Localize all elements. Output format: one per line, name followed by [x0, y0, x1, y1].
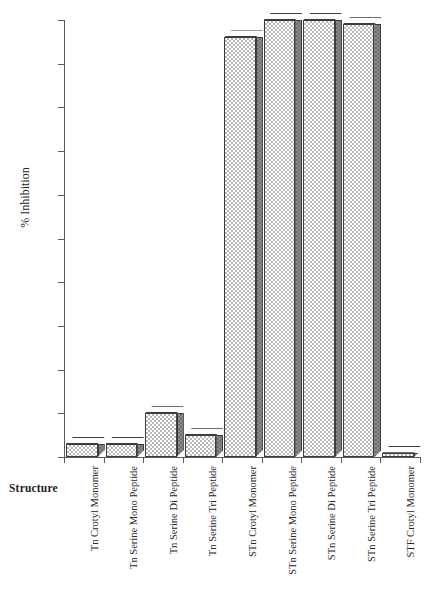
x-axis-category-label: Tn Crotyl Monomer	[89, 466, 101, 551]
bar-top-face	[185, 428, 224, 435]
x-axis-category-label: STn Serine Tri Peptide	[366, 466, 378, 562]
bar-side-face	[137, 444, 144, 457]
bar-top-face	[382, 446, 421, 453]
bar	[382, 446, 421, 457]
bar	[343, 17, 382, 457]
bar-top-face	[264, 13, 303, 20]
bar-chart: % Inhibition 0102030405060708090100 Tn C…	[0, 0, 428, 609]
bar-top-face	[343, 17, 382, 24]
bar-side-face	[98, 444, 105, 457]
x-axis-category-label: STn Crotyl Monomer	[247, 466, 259, 557]
bar-side-face	[216, 435, 223, 457]
bar-front-face	[303, 20, 335, 457]
bar-side-face	[256, 37, 263, 457]
bar-front-face	[343, 24, 375, 457]
bar-top-face	[66, 437, 105, 444]
bar-front-face	[264, 20, 296, 457]
x-axis-title: Structure	[9, 482, 58, 494]
bar-front-face	[145, 413, 177, 457]
bar-front-face	[66, 444, 98, 457]
bar-top-face	[224, 30, 263, 37]
bar	[224, 30, 263, 457]
bar	[145, 406, 184, 457]
bar	[264, 13, 303, 457]
bar-side-face	[414, 453, 421, 457]
bar	[185, 428, 224, 457]
bar-top-face	[145, 406, 184, 413]
bar-side-face	[295, 20, 302, 457]
bar-side-face	[374, 24, 381, 457]
bar	[106, 437, 145, 457]
bar-front-face	[224, 37, 256, 457]
x-axis-category-label: Tn Serine Di Peptide	[168, 466, 180, 554]
bar-side-face	[335, 20, 342, 457]
bar-front-face	[382, 453, 414, 457]
x-axis-category-label: STn Serine Mono Peptide	[287, 466, 299, 575]
bar-front-face	[106, 444, 138, 457]
x-axis-category-label: Tn Serine Tri Peptide	[207, 466, 219, 556]
bar	[66, 437, 105, 457]
x-axis-category-label: Tn Serine Mono Peptide	[128, 466, 140, 569]
x-axis-category-label: STn Serine Di Peptide	[326, 466, 338, 560]
x-axis-category-label: STF Crotyl Monomer	[405, 466, 417, 558]
bar-side-face	[177, 413, 184, 457]
bar-top-face	[106, 437, 145, 444]
bar	[303, 13, 342, 457]
bar-front-face	[185, 435, 217, 457]
bar-top-face	[303, 13, 342, 20]
